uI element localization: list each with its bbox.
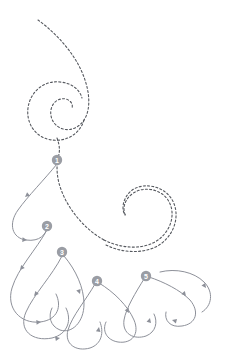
waypoint-marker-2[interactable]: 2: [42, 221, 52, 231]
waypoint-marker-3[interactable]: 3: [57, 247, 67, 257]
waypoint-circle-icon: [92, 276, 102, 286]
waypoint-circle-icon: [57, 247, 67, 257]
waypoint-marker-1[interactable]: 1: [52, 155, 62, 165]
waypoint-marker-5[interactable]: 5: [141, 271, 151, 281]
waypoint-circle-icon: [42, 221, 52, 231]
trajectory-diagram: 12345: [0, 0, 225, 357]
waypoint-marker-4[interactable]: 4: [92, 276, 102, 286]
diagram-canvas: 12345: [0, 0, 225, 357]
waypoint-circle-icon: [52, 155, 62, 165]
canvas-background: [0, 0, 225, 357]
waypoint-circle-icon: [141, 271, 151, 281]
